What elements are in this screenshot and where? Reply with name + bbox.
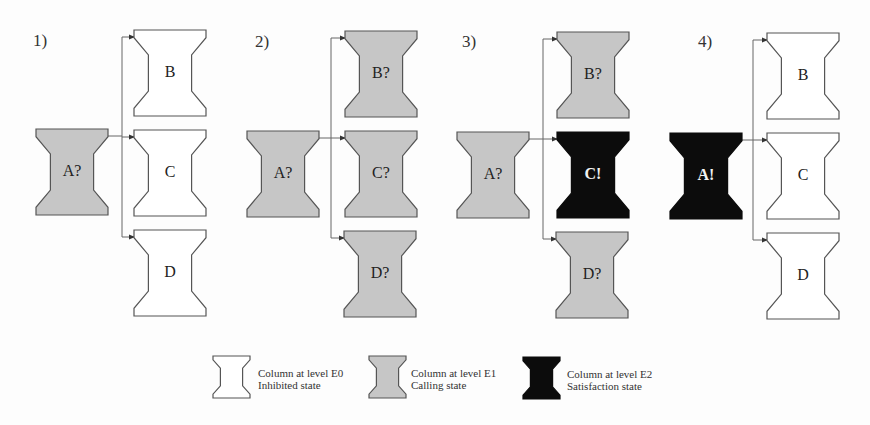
column-label: D? xyxy=(556,264,628,284)
column-label: B? xyxy=(345,63,417,83)
column-label: A? xyxy=(457,164,529,184)
column-a: A? xyxy=(247,131,319,217)
column-label: A? xyxy=(36,161,108,181)
panel-label: 2) xyxy=(255,33,269,50)
legend-state: Inhibited state xyxy=(258,379,343,391)
column-label: D xyxy=(134,262,206,282)
column-label: B xyxy=(767,65,839,85)
column-c: C? xyxy=(345,131,417,217)
legend-text: Column at level E1 Calling state xyxy=(411,367,496,391)
column-label: C xyxy=(134,162,206,182)
column-e1-icon xyxy=(369,356,406,398)
column-b: B xyxy=(134,30,206,116)
legend-state: Satisfaction state xyxy=(567,380,652,392)
column-label: A! xyxy=(670,165,742,185)
panel-label: 1) xyxy=(33,32,47,49)
column-label: A? xyxy=(247,163,319,183)
column-a: A? xyxy=(457,132,529,218)
column-b: B xyxy=(767,33,839,119)
panel-label: 4) xyxy=(698,33,712,50)
column-d: D? xyxy=(556,232,628,318)
column-c: C xyxy=(134,130,206,216)
column-label: C xyxy=(767,165,839,185)
legend-level: Column at level E2 xyxy=(567,368,652,380)
column-label: D xyxy=(767,265,839,285)
column-label: B xyxy=(134,62,206,82)
diagram-canvas: 1) A? B C D 2) A? B? C? xyxy=(0,0,870,425)
legend-state: Calling state xyxy=(411,379,496,391)
column-e2-icon xyxy=(523,357,560,399)
legend-text: Column at level E0 Inhibited state xyxy=(258,367,343,391)
legend-text: Column at level E2 Satisfaction state xyxy=(567,368,652,392)
column-a: A? xyxy=(36,129,108,215)
column-a: A! xyxy=(670,133,742,219)
column-e0-icon xyxy=(213,356,250,398)
column-label: C! xyxy=(557,164,629,184)
column-b: B? xyxy=(345,31,417,117)
column-b: B? xyxy=(557,32,629,118)
legend-level: Column at level E0 xyxy=(258,367,343,379)
column-label: B? xyxy=(557,64,629,84)
column-label: C? xyxy=(345,163,417,183)
column-d: D? xyxy=(344,231,416,317)
legend-level: Column at level E1 xyxy=(411,367,496,379)
panel-label: 3) xyxy=(462,33,476,50)
column-c: C! xyxy=(557,132,629,218)
column-label: D? xyxy=(344,263,416,283)
column-d: D xyxy=(134,230,206,316)
column-d: D xyxy=(767,233,839,319)
column-c: C xyxy=(767,133,839,219)
